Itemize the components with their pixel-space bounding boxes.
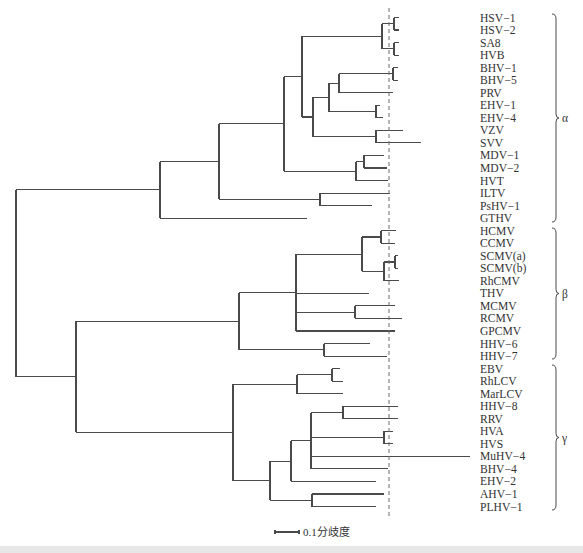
- leaf-label: RhCMV: [480, 275, 521, 288]
- scale-bar: 0.1分歧度: [275, 525, 350, 538]
- leaf-label: SCMV(a): [480, 250, 526, 263]
- leaf-label: HVA: [480, 425, 504, 438]
- leaf-label: SA8: [480, 37, 501, 50]
- clade-brace: [552, 228, 559, 359]
- leaf-label: RCMV: [480, 312, 515, 325]
- leaf-label: RhLCV: [480, 375, 517, 388]
- leaf-label: HHV−8: [480, 400, 518, 413]
- leaf-label: SVV: [480, 137, 504, 150]
- page-bottom-edge: [0, 546, 583, 553]
- leaf-label: PRV: [480, 87, 502, 100]
- leaf-label: MDV−2: [480, 162, 520, 175]
- leaf-label: GPCMV: [480, 325, 522, 338]
- tree-branches: [16, 18, 470, 507]
- scale-bar-label: 0.1分歧度: [303, 525, 350, 538]
- leaf-label: EBV: [480, 363, 504, 376]
- leaf-label: MCMV: [480, 300, 517, 313]
- leaf-label: HVS: [480, 438, 503, 451]
- leaf-label: HSV−2: [480, 24, 516, 37]
- leaf-label: HSV−1: [480, 12, 516, 25]
- leaf-label: HVB: [480, 49, 505, 62]
- leaf-label: VZV: [480, 124, 504, 137]
- clade-label: γ: [561, 432, 567, 445]
- leaf-label: MDV−1: [480, 149, 520, 162]
- leaf-label: HCMV: [480, 225, 515, 238]
- leaf-label: AHV−1: [480, 488, 518, 501]
- leaf-label: EHV−2: [480, 475, 516, 488]
- leaf-label: CCMV: [480, 237, 515, 250]
- phylogenetic-tree-figure: HSV−1HSV−2SA8HVBBHV−1BHV−5PRVEHV−1EHV−4V…: [0, 0, 583, 553]
- leaf-label: GTHV: [480, 212, 513, 225]
- tree-canvas: HSV−1HSV−2SA8HVBBHV−1BHV−5PRVEHV−1EHV−4V…: [0, 0, 583, 553]
- clade-brackets: αβγ: [552, 14, 568, 510]
- leaf-label: PLHV−1: [480, 501, 523, 514]
- clade-label: α: [562, 112, 568, 124]
- leaf-label: RRV: [480, 413, 504, 426]
- tree-branch-lines: [16, 18, 470, 507]
- leaf-label: BHV−1: [480, 62, 517, 75]
- leaf-label: BHV−5: [480, 74, 517, 87]
- leaf-labels: HSV−1HSV−2SA8HVBBHV−1BHV−5PRVEHV−1EHV−4V…: [480, 12, 527, 514]
- clade-brace: [552, 14, 559, 222]
- leaf-label: MarLCV: [480, 388, 523, 401]
- clade-label: β: [562, 288, 568, 301]
- clade-brace: [552, 365, 559, 510]
- leaf-label: HVT: [480, 175, 504, 188]
- leaf-label: THV: [480, 287, 504, 300]
- leaf-label: ILTV: [480, 187, 506, 200]
- leaf-label: HHV−6: [480, 338, 518, 351]
- leaf-label: EHV−1: [480, 99, 516, 112]
- scale-bar-line: [275, 530, 299, 534]
- leaf-label: SCMV(b): [480, 262, 527, 275]
- leaf-label: EHV−4: [480, 112, 516, 125]
- leaf-label: HHV−7: [480, 350, 518, 363]
- leaf-label: MuHV−4: [480, 450, 525, 463]
- leaf-label: BHV−4: [480, 463, 517, 476]
- leaf-label: PsHV−1: [480, 200, 520, 213]
